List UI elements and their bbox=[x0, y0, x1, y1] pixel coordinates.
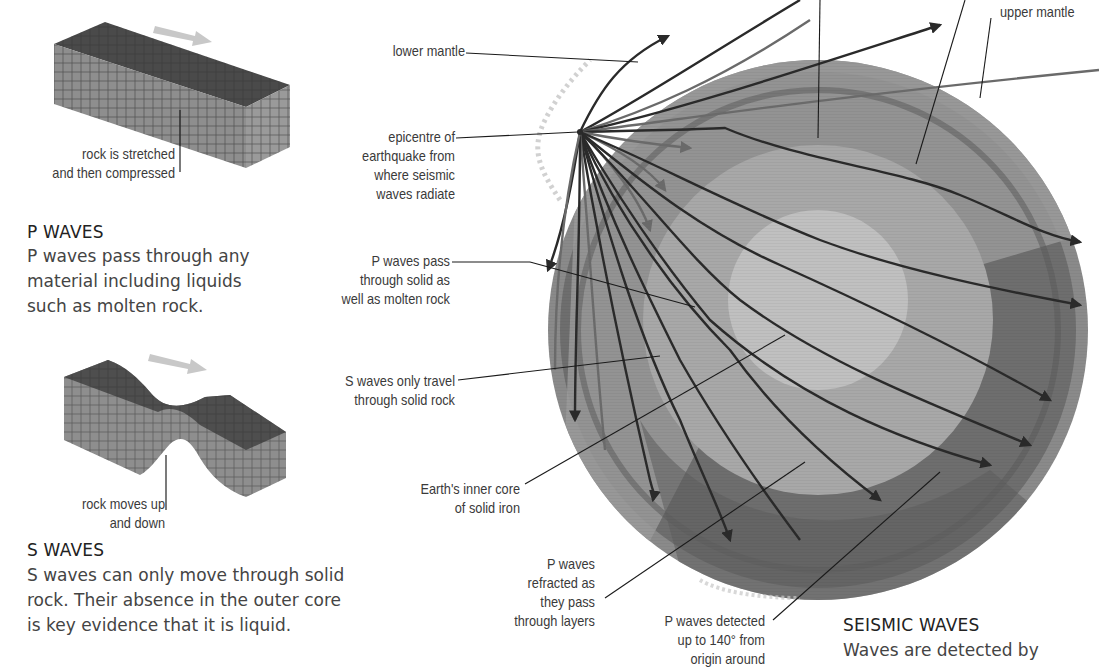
label-epicentre: epicentre of earthquake from where seism… bbox=[323, 128, 455, 204]
seismic-waves-description: Waves are detected by bbox=[843, 638, 1039, 663]
s-waves-heading: S WAVES bbox=[27, 540, 104, 560]
p-waves-heading: P WAVES bbox=[27, 222, 104, 242]
label-p-waves-refracted: P waves refracted as they pass through l… bbox=[467, 555, 595, 631]
label-upper-mantle: upper mantle bbox=[1000, 3, 1074, 22]
label-s-waves-travel: S waves only travel through solid rock bbox=[319, 372, 455, 410]
p-wave-illustration-caption: rock is stretched and then compressed bbox=[47, 145, 175, 183]
seismic-waves-heading: SEISMIC WAVES bbox=[843, 615, 979, 635]
p-waves-description: P waves pass through any material includ… bbox=[27, 244, 250, 319]
label-p-waves-detected: P waves detected up to 140° from origin … bbox=[637, 612, 765, 669]
label-p-waves-pass: P waves pass through solid as well as mo… bbox=[314, 252, 450, 309]
s-wave-block-illustration bbox=[64, 354, 286, 510]
s-waves-description: S waves can only move through solid rock… bbox=[27, 563, 344, 638]
label-lower-mantle: lower mantle bbox=[337, 42, 465, 61]
motion-arrow-icon bbox=[148, 354, 207, 374]
s-wave-illustration-caption: rock moves up and down bbox=[37, 495, 165, 533]
label-inner-core: Earth's inner core of solid iron bbox=[388, 480, 520, 518]
